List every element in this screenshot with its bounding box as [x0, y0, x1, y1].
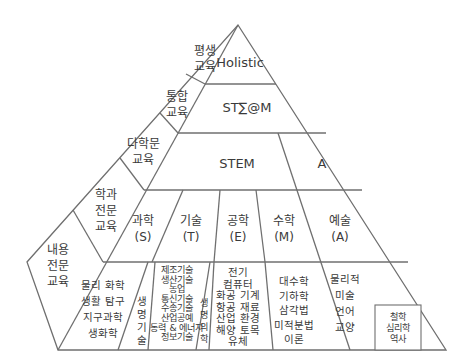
svg-text:수학: 수학 [273, 214, 295, 228]
science-item: 생활 탐구 [81, 295, 124, 307]
subject-arts: 예술 (A) [329, 214, 351, 244]
svg-text:다학문: 다학문 [127, 137, 160, 151]
level-stem: STEM [219, 156, 255, 171]
bio_tech-item: 기 [137, 321, 147, 333]
svg-text:(S): (S) [135, 230, 152, 244]
content-divider-bio-tech [148, 262, 155, 350]
content-divider-med-eng [209, 262, 214, 350]
svg-text:교육: 교육 [132, 153, 154, 167]
svg-text:전문: 전문 [95, 204, 117, 218]
svg-text:과학: 과학 [132, 214, 154, 228]
arts-item: 미술 [335, 289, 355, 301]
svg-text:학과: 학과 [95, 188, 117, 202]
subject-divider-te [214, 190, 220, 262]
math-item: 삼각법 [279, 304, 309, 316]
svg-text:예술: 예술 [329, 214, 351, 228]
content-bio-tech: 생명기술 [137, 295, 147, 346]
engineering-item: 유체 [228, 335, 248, 347]
content-engineering: 전기컴퓨터화공 기계항공 재료산업 환경해양 토목유체 [216, 266, 259, 347]
side-label-integrated: 통합 교육 [166, 90, 188, 120]
side-divider-1 [186, 74, 205, 84]
science-item: 생화학 [88, 327, 118, 339]
svg-text:(T): (T) [183, 230, 200, 244]
svg-text:교육: 교육 [47, 275, 69, 289]
svg-text:교육: 교육 [194, 60, 216, 74]
svg-text:평생: 평생 [194, 44, 216, 58]
math-item: 미적분법 [274, 319, 314, 331]
arts-item: 물리적 [330, 273, 360, 285]
bio_medicine-item: 생 [200, 297, 208, 308]
side-label-lifelong: 평생 교육 [194, 44, 216, 74]
science-item: 지구과학 [83, 311, 123, 323]
subject-divider-em [256, 190, 265, 262]
engineering-item: 컴퓨터 [223, 278, 253, 290]
level-stsm: ST∑@M [222, 100, 271, 115]
content-math: 대수학기하학삼각법미적분법이론 [274, 275, 314, 345]
side-label-multidisciplinary: 다학문 교육 [127, 137, 160, 167]
bio_tech-item: 생 [137, 295, 147, 307]
arts-item: 언어 [335, 305, 355, 317]
subject-engineering: 공학 (E) [227, 214, 249, 244]
svg-text:기술: 기술 [180, 214, 202, 228]
level-a: A [318, 156, 327, 171]
technology-item: 정보기술 [161, 331, 193, 342]
subject-science: 과학 (S) [132, 214, 154, 244]
arts_box-item: 역사 [390, 333, 407, 344]
subject-math: 수학 (M) [273, 214, 295, 244]
science-item: 물리 화학 [81, 279, 124, 291]
subject-divider-st [152, 190, 183, 262]
bio_medicine-item: 학 [200, 333, 209, 344]
engineering-item: 산업 환경 [216, 312, 259, 324]
engineering-item: 화공 기계 [216, 289, 259, 301]
math-item: 이론 [284, 333, 304, 345]
steam-pyramid-diagram: Holistic ST∑@M STEM A 평생 교육 통합 교육 다학문 교육… [0, 0, 472, 364]
arts_box-item: 철학 [390, 311, 407, 322]
engineering-item: 해양 토목 [216, 324, 259, 336]
svg-text:(E): (E) [230, 230, 247, 244]
engineering-item: 전기 [228, 266, 248, 278]
side-label-content: 내용 전문 교육 [47, 243, 69, 289]
level-holistic: Holistic [216, 55, 264, 70]
math-item: 대수학 [279, 275, 309, 287]
svg-text:공학: 공학 [227, 214, 249, 228]
content-science: 물리 화학생활 탐구지구과학생화학 [81, 279, 124, 339]
svg-text:(A): (A) [331, 230, 349, 244]
content-technology: 제조기술생산기술농업통신기술수송기술산업공예동력 & 에너지정보기술 [150, 264, 203, 342]
bio_medicine-item: 의 [200, 321, 208, 332]
svg-text:통합: 통합 [166, 90, 188, 104]
svg-text:교육: 교육 [166, 106, 188, 120]
side-label-departmental: 학과 전문 교육 [95, 188, 117, 234]
svg-text:교육: 교육 [95, 220, 117, 234]
arts-item: 교양 [335, 321, 355, 333]
svg-text:(M): (M) [274, 230, 294, 244]
svg-text:내용: 내용 [47, 243, 69, 257]
bio_tech-item: 술 [137, 334, 147, 346]
bio_medicine-item: 명 [200, 309, 208, 320]
arts_box-item: 심리학 [386, 322, 411, 333]
math-item: 기하학 [279, 290, 309, 302]
engineering-item: 항공 재료 [216, 301, 259, 313]
bio_tech-item: 명 [137, 308, 147, 320]
subject-technology: 기술 (T) [180, 214, 202, 244]
content-bio-medicine: 생명의학 [200, 297, 209, 344]
content-divider-eng-math [265, 262, 273, 350]
svg-text:전문: 전문 [47, 259, 69, 273]
